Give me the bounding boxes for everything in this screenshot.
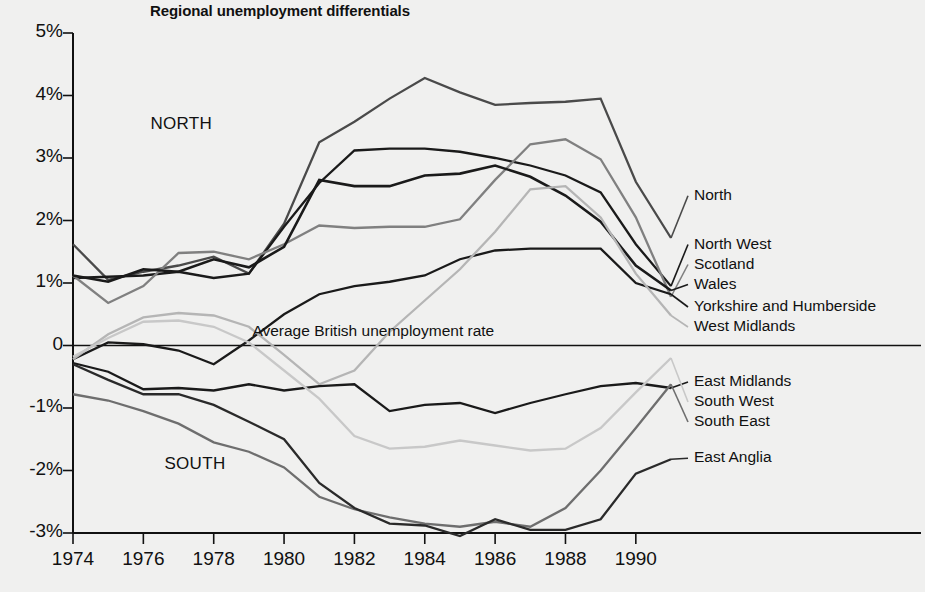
north-region-annotation: NORTH	[150, 114, 212, 134]
y-axis-tick-label: 1%	[5, 270, 63, 292]
y-axis-tick-label: -2%	[5, 458, 63, 480]
series-label-east-anglia: East Anglia	[694, 448, 772, 466]
leader-line-west-midlands	[671, 316, 688, 328]
leader-line-east-midlands	[671, 382, 688, 388]
line-chart-canvas	[0, 0, 925, 592]
leader-line-yorkshire-and-humberside	[671, 294, 688, 307]
y-axis-tick-label: -1%	[5, 395, 63, 417]
leader-line-south-east	[671, 384, 688, 422]
x-axis-tick-label: 1990	[596, 548, 676, 570]
leader-line-north	[671, 196, 688, 238]
series-label-south-west: South West	[694, 392, 774, 410]
leader-line-east-anglia	[671, 458, 688, 459]
average-rate-annotation: Average British unemployment rate	[252, 322, 494, 340]
leader-line-south-west	[671, 358, 688, 402]
y-axis-tick-label: 2%	[5, 208, 63, 230]
series-line-scotland	[73, 139, 671, 303]
series-label-scotland: Scotland	[694, 255, 754, 273]
series-line-west-midlands	[73, 186, 671, 384]
series-line-south-west	[73, 321, 671, 451]
x-axis-tick-label: 1980	[244, 548, 324, 570]
x-axis-tick-label: 1984	[385, 548, 465, 570]
series-label-east-midlands: East Midlands	[694, 372, 791, 390]
series-label-north: North	[694, 186, 732, 204]
y-axis-tick-label: 0	[5, 333, 63, 355]
series-label-west-midlands: West Midlands	[694, 317, 795, 335]
y-axis-tick-label: 3%	[5, 145, 63, 167]
x-axis-tick-label: 1976	[103, 548, 183, 570]
x-axis-tick-label: 1978	[174, 548, 254, 570]
chart-figure: Regional unemployment differentials 5%4%…	[0, 0, 925, 592]
series-line-yorkshire-and-humberside	[73, 249, 671, 365]
y-axis-tick-label: 5%	[5, 20, 63, 42]
series-line-north-west	[73, 149, 671, 287]
series-line-south-east	[73, 384, 671, 527]
south-region-annotation: SOUTH	[164, 454, 225, 474]
series-label-yorkshire-and-humberside: Yorkshire and Humberside	[694, 297, 876, 315]
series-line-east-midlands	[73, 363, 671, 413]
y-axis-tick-label: -3%	[5, 520, 63, 542]
x-axis-tick-label: 1988	[525, 548, 605, 570]
x-axis-tick-label: 1982	[314, 548, 394, 570]
leader-line-wales	[671, 285, 688, 291]
series-label-wales: Wales	[694, 275, 737, 293]
x-axis-tick-label: 1986	[455, 548, 535, 570]
y-axis-tick-label: 4%	[5, 83, 63, 105]
series-label-north-west: North West	[694, 235, 771, 253]
x-axis-tick-label: 1974	[33, 548, 113, 570]
series-label-south-east: South East	[694, 412, 770, 430]
